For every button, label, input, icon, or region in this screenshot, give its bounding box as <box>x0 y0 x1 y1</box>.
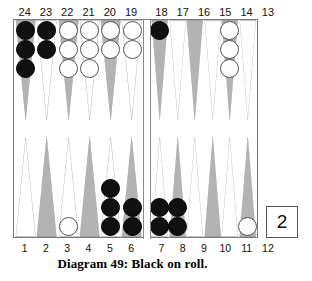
checker-black[interactable] <box>123 217 142 236</box>
point-14[interactable] <box>221 20 239 120</box>
checker-black[interactable] <box>101 217 120 236</box>
checker-black[interactable] <box>16 59 35 78</box>
point-number-17: 17 <box>172 7 193 18</box>
checker-white[interactable] <box>59 217 78 236</box>
point-20[interactable] <box>100 20 121 120</box>
doubling-cube-value: 2 <box>277 211 288 233</box>
point-11[interactable] <box>221 137 239 237</box>
point-number-12: 12 <box>257 243 278 254</box>
point-number-16: 16 <box>193 7 214 18</box>
board-top-half <box>14 20 257 120</box>
checker-black[interactable] <box>101 179 120 198</box>
point-13[interactable] <box>239 20 257 120</box>
checker-white[interactable] <box>123 21 142 40</box>
checker-black[interactable] <box>123 198 142 217</box>
backgammon-diagram: 242322212019181716151413 123456789101112… <box>0 0 312 281</box>
checker-white[interactable] <box>123 40 142 59</box>
top-point-numbers: 242322212019181716151413 <box>14 4 279 18</box>
point-8[interactable] <box>169 137 187 237</box>
checker-black[interactable] <box>150 217 169 236</box>
point-10[interactable] <box>204 137 222 237</box>
checker-stack-22[interactable] <box>58 21 79 78</box>
point-triangle-1 <box>15 137 36 237</box>
checker-black[interactable] <box>168 217 187 236</box>
point-18[interactable] <box>151 20 169 120</box>
checker-stack-6[interactable] <box>121 198 142 236</box>
checker-white[interactable] <box>59 21 78 40</box>
point-6[interactable] <box>121 137 142 237</box>
point-number-22: 22 <box>57 7 78 18</box>
point-number-3: 3 <box>57 243 78 254</box>
point-number-11: 11 <box>236 243 257 254</box>
checker-stack-19[interactable] <box>121 21 142 59</box>
point-12[interactable] <box>239 137 257 237</box>
point-17[interactable] <box>169 20 187 120</box>
checker-white[interactable] <box>59 40 78 59</box>
point-16[interactable] <box>186 20 204 120</box>
checker-black[interactable] <box>150 198 169 217</box>
checker-black[interactable] <box>168 198 187 217</box>
point-23[interactable] <box>36 20 57 120</box>
checker-black[interactable] <box>37 21 56 40</box>
checker-stack-14[interactable] <box>221 21 239 78</box>
point-4[interactable] <box>79 137 100 237</box>
checker-stack-3[interactable] <box>58 217 79 236</box>
point-number-24: 24 <box>14 7 35 18</box>
checker-white[interactable] <box>80 59 99 78</box>
checker-white[interactable] <box>59 59 78 78</box>
checker-white[interactable] <box>80 40 99 59</box>
point-1[interactable] <box>15 137 36 237</box>
quadrant-bottom-right <box>151 137 256 237</box>
point-triangle-16 <box>186 20 204 120</box>
point-triangle-4 <box>79 137 100 237</box>
backgammon-board <box>13 19 258 238</box>
point-triangle-17 <box>169 20 187 120</box>
point-triangle-11 <box>221 137 239 237</box>
checker-white[interactable] <box>220 40 239 59</box>
point-number-9: 9 <box>193 243 214 254</box>
checker-stack-5[interactable] <box>100 179 121 236</box>
point-number-8: 8 <box>172 243 193 254</box>
point-19[interactable] <box>121 20 142 120</box>
doubling-cube[interactable]: 2 <box>266 206 298 238</box>
checker-stack-24[interactable] <box>15 21 36 78</box>
checker-stack-23[interactable] <box>36 21 57 59</box>
checker-black[interactable] <box>101 198 120 217</box>
board-bottom-half <box>14 137 257 237</box>
point-9[interactable] <box>186 137 204 237</box>
checker-white[interactable] <box>220 21 239 40</box>
point-triangle-13 <box>239 20 257 120</box>
point-22[interactable] <box>58 20 79 120</box>
checker-stack-21[interactable] <box>79 21 100 78</box>
point-7[interactable] <box>151 137 169 237</box>
point-3[interactable] <box>58 137 79 237</box>
point-24[interactable] <box>15 20 36 120</box>
point-number-1: 1 <box>14 243 35 254</box>
checker-black[interactable] <box>16 21 35 40</box>
point-number-21: 21 <box>78 7 99 18</box>
checker-stack-7[interactable] <box>151 198 169 236</box>
checker-stack-20[interactable] <box>100 21 121 59</box>
checker-white[interactable] <box>101 21 120 40</box>
point-5[interactable] <box>100 137 121 237</box>
point-number-10: 10 <box>215 243 236 254</box>
checker-white[interactable] <box>101 40 120 59</box>
point-15[interactable] <box>204 20 222 120</box>
point-number-5: 5 <box>99 243 120 254</box>
point-2[interactable] <box>36 137 57 237</box>
checker-black[interactable] <box>16 40 35 59</box>
board-bar <box>143 20 151 239</box>
checker-white[interactable] <box>238 217 257 236</box>
checker-stack-8[interactable] <box>169 198 187 236</box>
checker-stack-12[interactable] <box>239 217 257 236</box>
checker-black[interactable] <box>150 21 169 40</box>
point-number-4: 4 <box>78 243 99 254</box>
checker-white[interactable] <box>220 59 239 78</box>
checker-black[interactable] <box>37 40 56 59</box>
point-number-14: 14 <box>236 7 257 18</box>
point-triangle-2 <box>36 137 57 237</box>
checker-stack-18[interactable] <box>151 21 169 40</box>
checker-white[interactable] <box>80 21 99 40</box>
point-21[interactable] <box>79 20 100 120</box>
diagram-caption: Diagram 49: Black on roll. <box>0 256 265 272</box>
